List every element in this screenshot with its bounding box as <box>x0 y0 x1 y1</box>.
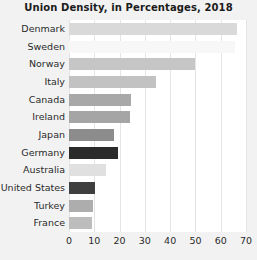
bar-denmark <box>69 23 237 35</box>
bar-row <box>69 164 246 176</box>
union-density-bar-chart: Union Density, in Percentages, 2018 Denm… <box>0 0 257 260</box>
bar-ireland <box>69 111 130 123</box>
bar-row <box>69 23 246 35</box>
category-label-canada: Canada <box>0 95 65 105</box>
x-tick-label-0: 0 <box>66 236 72 246</box>
bar-row <box>69 147 246 159</box>
x-tick-label-60: 60 <box>215 236 227 246</box>
bar-germany <box>69 147 118 159</box>
category-label-australia: Australia <box>0 165 65 175</box>
gridline-70 <box>246 20 247 232</box>
bar-row <box>69 200 246 212</box>
bar-sweden <box>69 41 235 53</box>
x-tick-label-70: 70 <box>240 236 252 246</box>
category-label-norway: Norway <box>0 59 65 69</box>
plot-area <box>69 20 246 232</box>
bar-canada <box>69 94 131 106</box>
category-label-sweden: Sweden <box>0 42 65 52</box>
category-label-turkey: Turkey <box>0 201 65 211</box>
x-tick-label-10: 10 <box>88 236 100 246</box>
category-label-japan: Japan <box>0 130 65 140</box>
x-tick-label-30: 30 <box>139 236 151 246</box>
x-tick-label-20: 20 <box>114 236 126 246</box>
bars-layer <box>69 20 246 232</box>
bar-italy <box>69 76 156 88</box>
x-tick-label-50: 50 <box>189 236 201 246</box>
bar-row <box>69 217 246 229</box>
category-label-germany: Germany <box>0 148 65 158</box>
value-axis-labels: 010203040506070 <box>69 236 246 252</box>
x-tick-label-40: 40 <box>164 236 176 246</box>
bar-row <box>69 111 246 123</box>
bar-row <box>69 129 246 141</box>
bar-united-states <box>69 182 95 194</box>
bar-japan <box>69 129 114 141</box>
bar-row <box>69 41 246 53</box>
bar-row <box>69 182 246 194</box>
category-label-italy: Italy <box>0 77 65 87</box>
chart-title: Union Density, in Percentages, 2018 <box>0 2 257 13</box>
bar-row <box>69 94 246 106</box>
category-label-france: France <box>0 218 65 228</box>
category-label-denmark: Denmark <box>0 24 65 34</box>
bar-row <box>69 76 246 88</box>
bar-turkey <box>69 200 93 212</box>
bar-australia <box>69 164 106 176</box>
bar-row <box>69 58 246 70</box>
category-axis-labels: DenmarkSwedenNorwayItalyCanadaIrelandJap… <box>0 20 65 232</box>
bar-france <box>69 217 92 229</box>
category-label-united-states: United States <box>0 183 65 193</box>
bar-norway <box>69 58 195 70</box>
category-label-ireland: Ireland <box>0 112 65 122</box>
